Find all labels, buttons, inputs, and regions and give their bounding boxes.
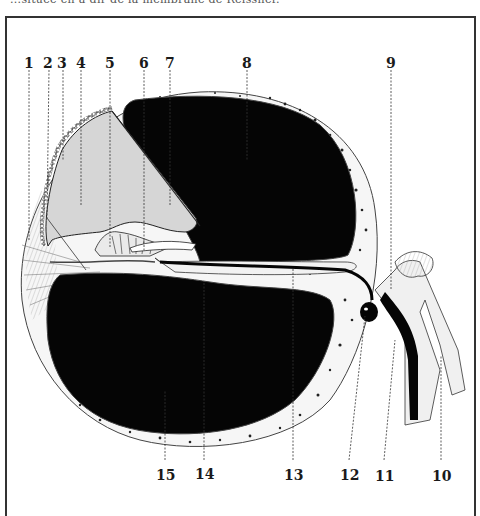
- label-2: 2: [43, 55, 53, 71]
- labels-top: 1 2 3 4 5 6 7 8 9: [24, 55, 396, 71]
- label-13: 13: [284, 467, 303, 483]
- label-11: 11: [375, 468, 394, 484]
- label-10: 10: [432, 468, 452, 484]
- label-5: 5: [105, 55, 115, 71]
- label-9: 9: [386, 55, 396, 71]
- spiral-ganglion: [360, 302, 378, 322]
- label-3: 3: [57, 55, 67, 71]
- cochlear-nerve: [360, 252, 465, 425]
- label-14: 14: [195, 466, 215, 482]
- label-7: 7: [165, 55, 175, 71]
- label-1: 1: [24, 55, 34, 71]
- label-4: 4: [76, 55, 86, 71]
- labels-bottom: 15 14 13 12 11 10: [156, 466, 452, 484]
- label-6: 6: [139, 55, 149, 71]
- label-15: 15: [156, 467, 175, 483]
- label-12: 12: [340, 467, 359, 483]
- label-8: 8: [242, 55, 252, 71]
